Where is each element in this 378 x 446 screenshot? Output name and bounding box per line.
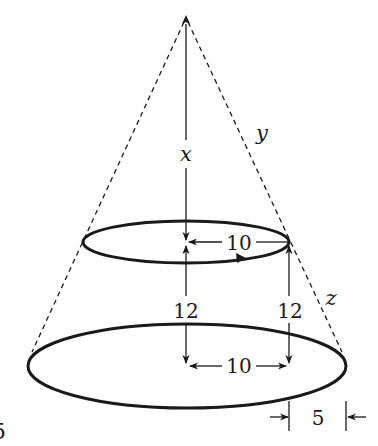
right-slant-dashed-line [188,22,342,352]
right-height-label: 12 [277,299,302,323]
left-height-label: 12 [173,299,198,323]
label-x: x [180,142,192,166]
label-z: z [324,286,337,310]
cone-frustum-diagram: 10 12 12 10 5 x y z 5 [0,0,378,446]
edge-fragment-label: 5 [0,419,6,444]
top-radius-label: 10 [226,231,251,255]
left-slant-dashed-line [32,22,184,352]
bottom-distance-label: 10 [226,354,251,378]
bottom-ellipse [28,324,346,408]
label-y: y [255,121,269,145]
radius-difference-label: 5 [312,406,325,430]
